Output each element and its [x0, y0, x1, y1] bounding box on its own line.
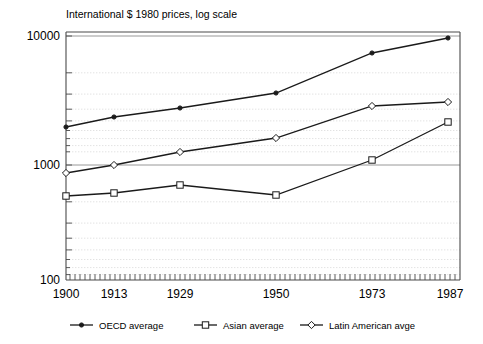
legend-marker-square-icon	[202, 322, 208, 328]
y-tick-marks	[66, 36, 72, 275]
data-point-oecd-1973	[370, 51, 374, 55]
x-tick-label-1929: 1929	[167, 287, 194, 301]
data-point-asian-1913	[111, 190, 117, 196]
x-tick-label-1950: 1950	[263, 287, 290, 301]
legend-label-oecd: OECD average	[99, 320, 163, 331]
x-tick-label-1973: 1973	[359, 287, 386, 301]
chart-svg: 10000 1000 100 1900 1913 1929 1950 1973 …	[0, 0, 483, 344]
data-point-oecd-1950	[274, 91, 278, 95]
data-point-latin-1929	[176, 148, 183, 155]
data-point-latin-1900	[62, 169, 69, 176]
legend-marker-diamond-icon	[308, 321, 315, 328]
y-tick-label-1000: 1000	[33, 158, 60, 172]
legend-item-latin-american-avge[interactable]: Latin American avge	[300, 320, 415, 331]
data-point-asian-1929	[177, 182, 183, 188]
y-tick-label-10000: 10000	[27, 29, 61, 43]
x-tick-label-1913: 1913	[101, 287, 128, 301]
data-point-asian-1950	[273, 192, 279, 198]
legend-label-asian: Asian average	[223, 320, 284, 331]
x-tick-label-1900: 1900	[53, 287, 80, 301]
chart-legend: OECD average Asian average Latin America…	[70, 320, 415, 331]
data-point-oecd-1900	[64, 125, 68, 129]
data-point-asian-1987	[445, 119, 451, 125]
y-tick-label-100: 100	[40, 273, 60, 287]
minor-gridlines	[66, 73, 460, 275]
data-point-latin-1913	[110, 161, 117, 168]
data-point-latin-1950	[272, 134, 279, 141]
data-point-latin-1987	[444, 98, 451, 105]
legend-marker-filled-dot-icon	[79, 323, 83, 327]
data-point-asian-1973	[369, 157, 375, 163]
series-oecd-average	[64, 36, 450, 129]
data-point-oecd-1913	[112, 115, 116, 119]
data-point-oecd-1929	[178, 106, 182, 110]
legend-label-latin: Latin American avge	[329, 320, 415, 331]
axes	[66, 32, 460, 280]
series-asian-average	[63, 119, 451, 199]
plot-area: 10000 1000 100 1900 1913 1929 1950 1973 …	[0, 0, 483, 344]
data-point-latin-1973	[368, 102, 375, 109]
chart-figure: International $ 1980 prices, log scale	[0, 0, 483, 344]
legend-item-asian-average[interactable]: Asian average	[194, 320, 284, 331]
data-point-oecd-1987	[446, 36, 450, 40]
data-point-asian-1900	[63, 193, 69, 199]
legend-item-oecd-average[interactable]: OECD average	[70, 320, 163, 331]
x-tick-label-1987: 1987	[437, 287, 464, 301]
